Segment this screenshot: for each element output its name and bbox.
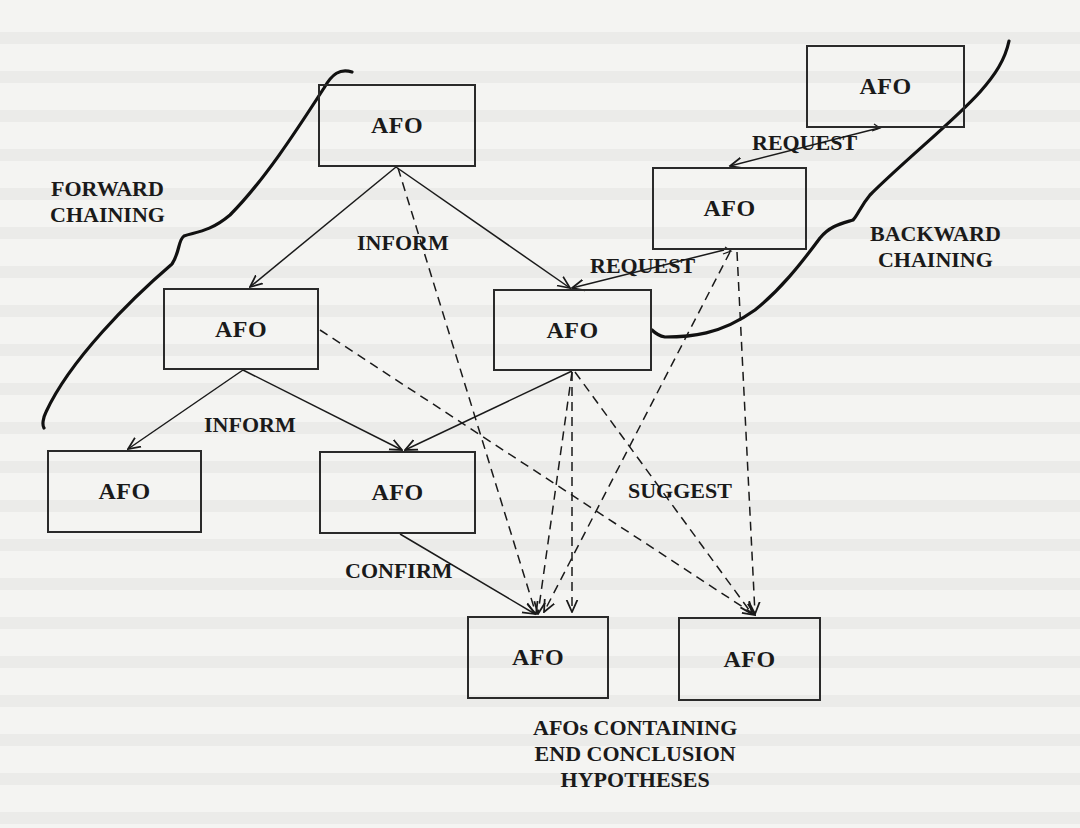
forward-chaining-line-1: FORWARD	[50, 176, 165, 202]
forward-chaining-boundary	[43, 71, 352, 428]
suggest-label: SUGGEST	[628, 478, 732, 504]
conclusion-caption: AFOs CONTAINING END CONCLUSION HYPOTHESE…	[533, 715, 737, 793]
afo-label: AFO	[371, 112, 423, 139]
backward-chaining-line-1: BACKWARD	[870, 221, 1001, 247]
edge-inform-topcenter-centermid	[396, 167, 570, 288]
afo-node-top-right: AFO	[806, 45, 965, 128]
backward-chaining-line-2: CHAINING	[870, 247, 1001, 273]
conclusion-caption-line-1: AFOs CONTAINING	[533, 715, 737, 741]
edge-inform-leftmid-bottomcenter	[243, 370, 402, 450]
edge-suggest-midright-conclusion2	[737, 252, 755, 614]
afo-node-mid-right: AFO	[652, 167, 807, 250]
edge-suggest-centermid-conclusion1	[538, 372, 572, 614]
afo-node-conclusion-2: AFO	[678, 617, 821, 701]
afo-label: AFO	[546, 317, 598, 344]
inform-label-top: INFORM	[357, 230, 449, 256]
forward-chaining-label: FORWARD CHAINING	[50, 176, 165, 228]
forward-chaining-line-2: CHAINING	[50, 202, 165, 228]
afo-node-conclusion-1: AFO	[467, 616, 609, 699]
afo-node-top-center: AFO	[318, 84, 476, 167]
request-label-bottom: REQUEST	[590, 253, 695, 279]
inform-label-bottom: INFORM	[204, 412, 296, 438]
afo-label: AFO	[859, 73, 911, 100]
edge-inform-topcenter-leftmid	[250, 167, 396, 287]
confirm-label: CONFIRM	[345, 558, 453, 584]
afo-node-left-mid: AFO	[163, 288, 319, 370]
afo-label: AFO	[512, 644, 564, 671]
afo-label: AFO	[723, 646, 775, 673]
request-label-top: REQUEST	[752, 130, 857, 156]
afo-node-bottom-center: AFO	[319, 451, 476, 534]
conclusion-caption-line-2: END CONCLUSION	[533, 741, 737, 767]
conclusion-caption-line-3: HYPOTHESES	[533, 767, 737, 793]
afo-node-bottom-left: AFO	[47, 450, 202, 533]
edge-inform-centermid-bottomcenter	[405, 371, 572, 450]
afo-label: AFO	[215, 316, 267, 343]
afo-label: AFO	[703, 195, 755, 222]
afo-label: AFO	[98, 478, 150, 505]
afo-label: AFO	[371, 479, 423, 506]
backward-chaining-label: BACKWARD CHAINING	[870, 221, 1001, 273]
afo-node-center-mid: AFO	[493, 289, 652, 371]
